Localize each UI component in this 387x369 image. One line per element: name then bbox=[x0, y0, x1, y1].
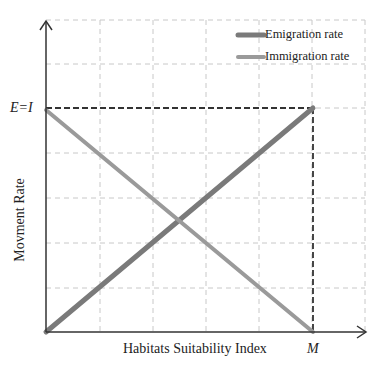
y-axis-label: Movment Rate bbox=[12, 165, 28, 275]
grid bbox=[46, 20, 365, 332]
axes bbox=[40, 21, 366, 338]
x-axis-label: Habitats Suitability Index bbox=[123, 341, 267, 357]
legend-label-emigration: Emigration rate bbox=[265, 27, 343, 42]
x-tick-label: M bbox=[307, 341, 319, 357]
y-tick-label: E=I bbox=[10, 100, 33, 116]
legend-label-immigration: Immigration rate bbox=[265, 49, 349, 64]
